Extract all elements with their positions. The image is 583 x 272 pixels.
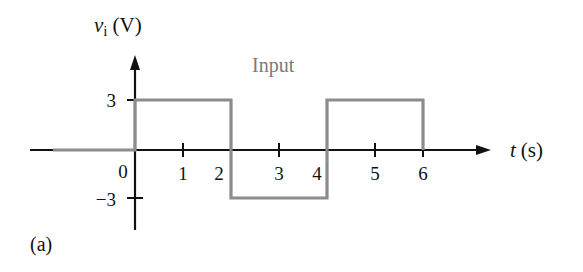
x-axis-arrow-icon xyxy=(476,145,491,155)
series-label-input: Input xyxy=(252,54,295,77)
x-tick-label-1: 1 xyxy=(178,163,188,184)
panel-label: (a) xyxy=(30,233,52,256)
y-tick-label-neg3: −3 xyxy=(96,189,116,210)
y-axis-arrow-icon xyxy=(130,55,140,70)
x-tick-label-0: 0 xyxy=(118,161,128,182)
x-tick-label-6: 6 xyxy=(418,163,428,184)
x-tick-labels: 0 1 2 3 4 5 6 xyxy=(118,161,428,184)
x-axis-label: t(s) xyxy=(510,138,543,162)
voltage-step-plot: 0 1 2 3 4 5 6 3 −3 vi(V) t(s) Input (a) xyxy=(0,0,583,272)
x-tick-label-5: 5 xyxy=(370,163,380,184)
y-axis-label: vi(V) xyxy=(94,13,142,39)
x-tick-label-3: 3 xyxy=(274,163,284,184)
x-tick-label-2: 2 xyxy=(214,163,224,184)
x-tick-label-4: 4 xyxy=(312,163,322,184)
y-tick-label-3: 3 xyxy=(107,90,117,111)
